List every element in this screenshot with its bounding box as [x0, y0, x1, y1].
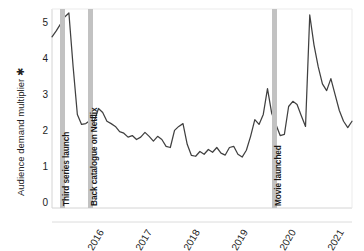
line-chart: Audience demand multiplier ✱ 5 4 3 2 1 0… [0, 0, 364, 251]
event-label-third-series-launch: Third series launch [61, 132, 71, 206]
plot-area [0, 0, 364, 251]
event-label-movie-launched: Movie launched [273, 145, 283, 206]
event-label-back-catalogue: Back catalogue on Netflix [89, 108, 99, 206]
